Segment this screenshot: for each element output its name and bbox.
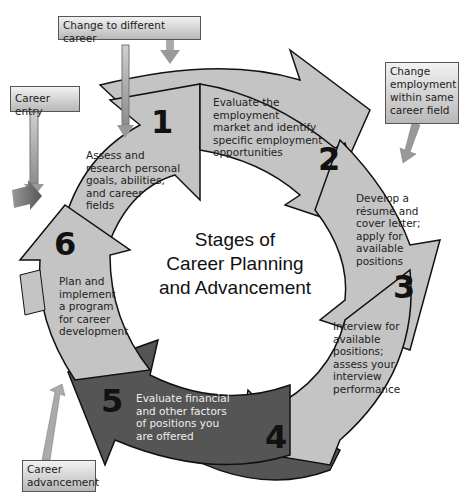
stage-1-number: 1	[151, 103, 173, 141]
stage-6-number: 6	[54, 225, 76, 263]
stage-6-label: Plan and implement a program for career …	[59, 275, 128, 338]
stage-5-number: 5	[101, 382, 123, 420]
stage-5-label: Evaluate financial and other factors of …	[136, 392, 230, 442]
stage-6-tab	[20, 270, 45, 315]
change-career-right-arrow	[160, 50, 180, 64]
entry-career-advancement: Career advancement	[22, 460, 96, 492]
stage-2-label: Evaluate the employment market and ident…	[213, 96, 322, 159]
stage-3-label: Develop a résumé and cover letter; apply…	[356, 192, 420, 267]
career-advancement-arrow	[42, 384, 65, 460]
stage-4-number: 4	[265, 418, 287, 456]
entry-change-employment: Change employment within same career fie…	[385, 62, 459, 124]
entry-change-career: Change to different career	[58, 16, 201, 40]
stage-3-number: 3	[393, 268, 415, 306]
diagram-title: Stages of Career Planning and Advancemen…	[140, 228, 330, 300]
entry-career-entry: Career entry	[10, 86, 80, 112]
change-employment-arrow	[400, 123, 420, 163]
stage-4-label: Interview for available positions; asses…	[333, 320, 400, 395]
stage-1-label: Assess and research personal goals, abil…	[86, 149, 180, 212]
